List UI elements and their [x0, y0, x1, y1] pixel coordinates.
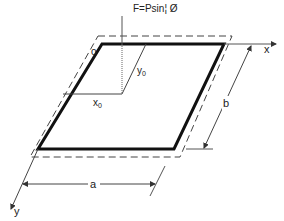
y-axis-label: y — [14, 205, 20, 217]
plate-diagram: x y o F=Psin¦ Ø x0 y0 b a — [0, 0, 284, 221]
force-label: F=Psin¦ Ø — [133, 3, 178, 14]
origin-label: o — [91, 46, 97, 57]
y0-line — [122, 44, 146, 94]
dim-a-ext-right — [150, 166, 165, 196]
x-axis-label: x — [264, 43, 270, 55]
dashed-boundary — [30, 36, 232, 157]
dim-a-label: a — [90, 178, 97, 190]
y-axis — [11, 149, 38, 209]
x0-label: x0 — [93, 97, 102, 109]
plate-outline — [38, 44, 224, 149]
dim-b-label: b — [223, 97, 229, 109]
y0-label: y0 — [137, 65, 146, 77]
